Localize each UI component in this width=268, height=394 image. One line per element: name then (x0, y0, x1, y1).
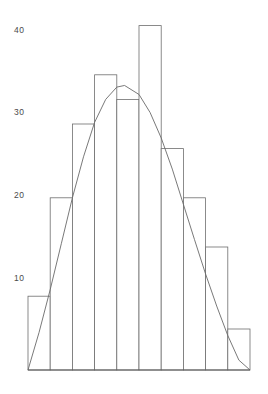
histogram-bar (161, 149, 183, 370)
histogram-bar (228, 329, 250, 370)
histogram-chart: 40 30 20 10 (0, 0, 268, 394)
chart-canvas: 40 30 20 10 (0, 0, 268, 394)
histogram-bar (139, 26, 161, 370)
histogram-bar (183, 198, 205, 370)
histogram-bar (117, 99, 139, 370)
y-tick-label-10: 10 (14, 273, 24, 283)
histogram-bar (206, 247, 228, 370)
bars-group (28, 26, 250, 370)
histogram-bar (50, 198, 72, 370)
y-axis-tick-labels: 40 30 20 10 (14, 25, 24, 283)
histogram-bar (95, 75, 117, 370)
y-tick-label-30: 30 (14, 107, 24, 117)
y-tick-label-20: 20 (14, 190, 24, 200)
histogram-bar (72, 124, 94, 370)
y-tick-label-40: 40 (14, 25, 24, 35)
